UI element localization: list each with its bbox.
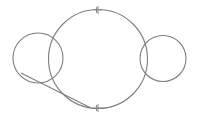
figure-container: Two small circles overlapping a large ci… — [0, 0, 197, 120]
circles-diagram: Two small circles overlapping a large ci… — [0, 0, 197, 120]
figure-background — [0, 0, 197, 120]
